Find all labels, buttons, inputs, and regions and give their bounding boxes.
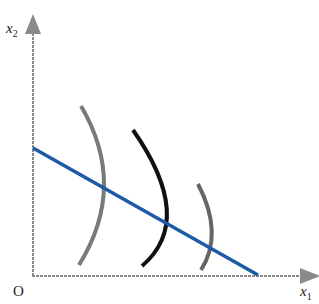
indifference-curve-2 bbox=[133, 130, 167, 266]
origin-label: O bbox=[13, 283, 24, 300]
x-axis-label: x1 bbox=[300, 283, 312, 302]
indifference-curve-3 bbox=[198, 184, 212, 270]
budget-line bbox=[33, 148, 258, 275]
y-axis-label: x2 bbox=[6, 20, 18, 39]
diagram-canvas bbox=[0, 0, 319, 304]
